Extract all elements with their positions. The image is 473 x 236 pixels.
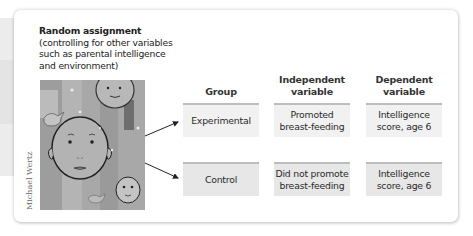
cell-control-group: Control: [183, 162, 259, 196]
cell-control-dependent: Intelligencescore, age 6: [366, 162, 442, 196]
arrow-to-experimental: [145, 122, 178, 136]
cell-control-independent: Did not promotebreast-feeding: [274, 162, 350, 196]
header-dependent-variable: Dependent variable: [366, 74, 442, 98]
cell-experimental-dependent: Intelligencescore, age 6: [366, 103, 442, 137]
header-independent-variable: Independent variable: [274, 74, 350, 98]
cell-experimental-group: Experimental: [183, 103, 259, 137]
header-group: Group: [183, 86, 259, 98]
cell-experimental-independent: Promotedbreast-feeding: [274, 103, 350, 137]
arrow-to-control: [145, 163, 178, 178]
